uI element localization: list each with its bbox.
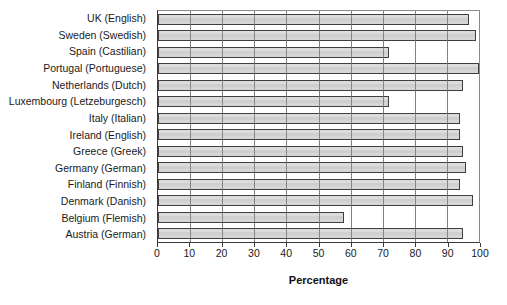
category-label: Austria (German) — [0, 226, 152, 243]
bar-row — [158, 209, 479, 226]
category-label: Sweden (Swedish) — [0, 27, 152, 44]
bar-row — [158, 176, 479, 193]
axis-tick-label: 20 — [216, 248, 228, 259]
bar-row — [158, 11, 479, 28]
axis-tick-label: 60 — [345, 248, 357, 259]
bar-row — [158, 61, 479, 78]
category-label: Italy (Italian) — [0, 110, 152, 127]
bar — [158, 179, 460, 190]
bar — [158, 30, 476, 41]
value-axis: 0102030405060708090100 — [157, 243, 480, 265]
bar — [158, 146, 463, 157]
axis-tick-label: 10 — [183, 248, 195, 259]
category-axis: UK (English)Sweden (Swedish)Spain (Casti… — [0, 10, 152, 243]
category-label: UK (English) — [0, 10, 152, 27]
bar-row — [158, 28, 479, 45]
x-axis-title: Percentage — [157, 274, 480, 286]
plot-area — [157, 10, 480, 243]
category-label: Belgium (Flemish) — [0, 210, 152, 227]
axis-tick-label: 30 — [248, 248, 260, 259]
bar — [158, 195, 473, 206]
bar — [158, 80, 463, 91]
bar-row — [158, 226, 479, 243]
bar-row — [158, 127, 479, 144]
bar-row — [158, 160, 479, 177]
bar — [158, 63, 479, 74]
category-label: Spain (Castilian) — [0, 43, 152, 60]
axis-tick-label: 50 — [313, 248, 325, 259]
bar-row — [158, 143, 479, 160]
bar — [158, 14, 469, 25]
axis-tick-label: 100 — [471, 248, 489, 259]
category-label: Ireland (English) — [0, 126, 152, 143]
bar — [158, 228, 463, 239]
category-label: Germany (German) — [0, 160, 152, 177]
axis-tick-label: 70 — [377, 248, 389, 259]
bar-row — [158, 77, 479, 94]
axis-tick-label: 80 — [410, 248, 422, 259]
bar — [158, 162, 466, 173]
category-label: Portugal (Portuguese) — [0, 60, 152, 77]
bar-row — [158, 110, 479, 127]
bars-layer — [158, 11, 479, 242]
bar-row — [158, 193, 479, 210]
category-label: Denmark (Danish) — [0, 193, 152, 210]
bar — [158, 96, 389, 107]
bar-row — [158, 44, 479, 61]
bar — [158, 212, 344, 223]
axis-tick-label: 40 — [280, 248, 292, 259]
axis-tick-label: 0 — [154, 248, 160, 259]
axis-tick-label: 90 — [442, 248, 454, 259]
category-label: Netherlands (Dutch) — [0, 77, 152, 94]
category-label: Luxembourg (Letzeburgesch) — [0, 93, 152, 110]
bar — [158, 47, 389, 58]
category-label: Finland (Finnish) — [0, 176, 152, 193]
bar-row — [158, 94, 479, 111]
category-label: Greece (Greek) — [0, 143, 152, 160]
bar — [158, 129, 460, 140]
percentage-bar-chart: UK (English)Sweden (Swedish)Spain (Casti… — [0, 0, 507, 305]
bar — [158, 113, 460, 124]
